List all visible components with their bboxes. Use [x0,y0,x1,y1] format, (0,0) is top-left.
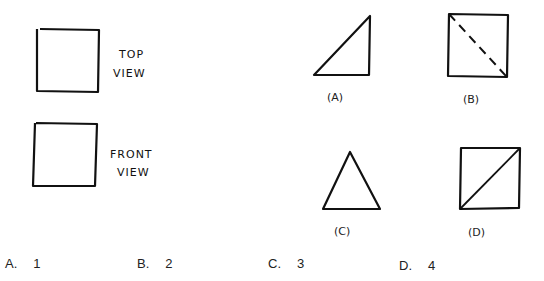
option-c-letter: C. [268,256,281,271]
option-d[interactable]: D.4 [399,258,435,273]
candidate-figure-b: (B) [448,14,508,106]
option-d-letter: D. [399,258,412,273]
front-view-label-1: FRONT [110,148,153,161]
candidate-figure-d: (D) [460,148,520,239]
front-view-figure: FRONT VIEW [33,123,153,186]
top-view-label-1: TOP [118,48,144,61]
option-a[interactable]: A.1 [5,256,41,271]
candidate-label-b: (B) [463,93,479,106]
option-b-value: 2 [165,256,172,271]
option-c-value: 3 [297,256,304,271]
candidate-label-d: (D) [468,226,485,239]
top-view-figure: TOP VIEW [37,29,146,92]
candidate-label-c: (C) [334,225,350,238]
option-b[interactable]: B.2 [137,256,173,271]
option-d-value: 4 [428,258,435,273]
option-a-value: 1 [33,256,40,271]
top-view-label-2: VIEW [113,67,146,80]
candidate-label-a: (A) [327,91,343,104]
front-view-label-2: VIEW [117,166,150,179]
option-b-letter: B. [137,256,149,271]
candidate-figure-c: (C) [323,152,380,238]
candidate-figure-a: (A) [314,16,370,104]
option-c[interactable]: C.3 [268,256,304,271]
option-a-letter: A. [5,256,17,271]
diagram-canvas: TOP VIEW FRONT VIEW (A) (B) (C) (D) [0,0,544,281]
